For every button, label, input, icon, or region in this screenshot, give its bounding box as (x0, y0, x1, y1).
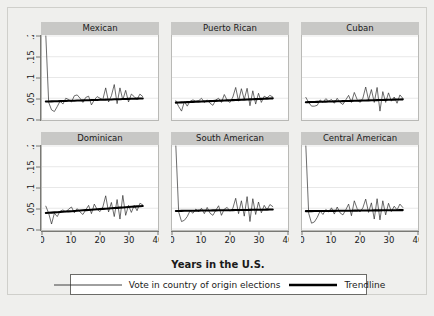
x-tick-label: 20 (95, 235, 106, 245)
x-tick-label: 10 (196, 235, 207, 245)
legend-label: Vote in country of origin elections (129, 280, 281, 290)
x-axis: 010203040 (41, 231, 159, 247)
panel-cuban: Cuban (301, 22, 419, 121)
x-tick-label: 30 (254, 235, 265, 245)
x-axis: 010203040 (301, 231, 419, 247)
panel-plot-area (41, 145, 159, 231)
panel-title: South American (171, 132, 289, 145)
panel-plot-area (301, 35, 419, 121)
figure-frame: Mexican0.05.1.15.2Puerto RicanCubanDomin… (7, 7, 427, 295)
panel-mexican: Mexican (41, 22, 159, 121)
x-axis-title: Years in the U.S. (8, 259, 428, 270)
panel-plot-area (41, 35, 159, 121)
x-tick-label: 30 (384, 235, 395, 245)
panel-plot-area (171, 145, 289, 231)
x-tick-label: 0 (41, 235, 45, 245)
y-tick-label: .1 (26, 74, 36, 82)
chart-legend: Vote in country of origin electionsTrend… (70, 274, 367, 295)
x-tick-label: 10 (326, 235, 337, 245)
y-tick-label: .2 (26, 145, 36, 150)
panel-title: Puerto Rican (171, 22, 289, 35)
legend-swatch-votes-icon (52, 280, 124, 290)
x-tick-label: 40 (413, 235, 419, 245)
panel-puerto-rican: Puerto Rican (171, 22, 289, 121)
x-tick-label: 0 (301, 235, 305, 245)
series-line-trendline (176, 98, 273, 102)
y-tick-label: .05 (26, 92, 36, 106)
y-tick-label: .15 (26, 50, 36, 64)
series-line-trendline (46, 206, 143, 213)
y-tick-label: 0 (26, 117, 36, 121)
y-tick-label: .15 (26, 160, 36, 174)
y-axis: 0.05.1.15.2 (10, 145, 41, 231)
legend-swatch-trendline-icon (287, 280, 339, 290)
x-tick-label: 30 (124, 235, 135, 245)
panel-south-american: South American (171, 132, 289, 231)
panel-central-american: Central American (301, 132, 419, 231)
series-line-trendline (176, 210, 273, 211)
series-line-trendline (306, 210, 403, 211)
panel-title: Central American (301, 132, 419, 145)
panel-title: Dominican (41, 132, 159, 145)
x-tick-label: 40 (283, 235, 289, 245)
panel-dominican: Dominican (41, 132, 159, 231)
x-tick-label: 10 (66, 235, 77, 245)
panel-plot-area (171, 35, 289, 121)
y-tick-label: .2 (26, 35, 36, 40)
y-axis: 0.05.1.15.2 (10, 35, 41, 121)
panel-title: Cuban (301, 22, 419, 35)
x-axis: 010203040 (171, 231, 289, 247)
y-tick-label: .05 (26, 202, 36, 216)
figure-root: Mexican0.05.1.15.2Puerto RicanCubanDomin… (0, 0, 434, 316)
x-tick-label: 20 (355, 235, 366, 245)
panel-title: Mexican (41, 22, 159, 35)
x-tick-label: 0 (171, 235, 175, 245)
panel-plot-area (301, 145, 419, 231)
y-tick-label: 0 (26, 227, 36, 231)
panel-grid: Mexican0.05.1.15.2Puerto RicanCubanDomin… (41, 22, 421, 244)
legend-entry: Trendline (287, 280, 385, 290)
legend-entry: Vote in country of origin elections (52, 280, 281, 290)
legend-label: Trendline (344, 280, 385, 290)
x-tick-label: 40 (153, 235, 159, 245)
y-tick-label: .1 (26, 184, 36, 192)
x-tick-label: 20 (225, 235, 236, 245)
